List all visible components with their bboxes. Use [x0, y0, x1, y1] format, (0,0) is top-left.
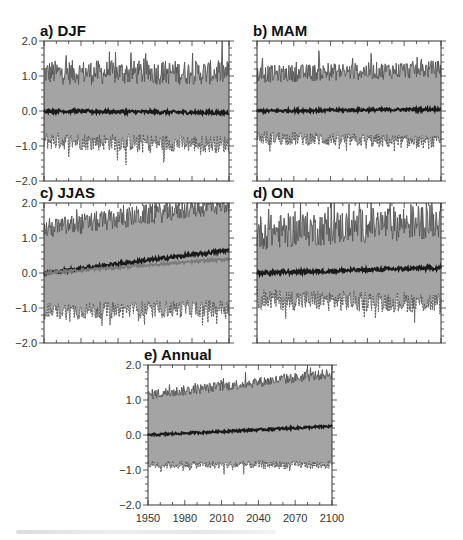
y-tick-label: −2.0	[15, 175, 37, 187]
y-tick-label: −2.0	[119, 499, 141, 511]
panel-title: d) ON	[253, 184, 294, 201]
x-tick-label: 1950	[136, 512, 160, 524]
panel-b: b) MAM	[252, 22, 446, 181]
panel-title: a) DJF	[40, 22, 86, 39]
y-tick-label: 1.0	[126, 394, 141, 406]
y-tick-label: 2.0	[22, 197, 37, 209]
panel-a: 2.01.00.0−1.0−2.0a) DJF	[15, 22, 234, 187]
spread-area	[148, 368, 332, 475]
y-tick-label: 1.0	[22, 70, 37, 82]
y-tick-label: 1.0	[22, 232, 37, 244]
figure-caption-cutoff	[16, 530, 276, 534]
y-tick-label: 2.0	[22, 35, 37, 47]
x-tick-label: 2100	[320, 512, 344, 524]
panel-title: b) MAM	[253, 22, 307, 39]
y-tick-label: 0.0	[22, 105, 37, 117]
y-tick-label: −2.0	[15, 337, 37, 349]
panel-title: e) Annual	[144, 346, 212, 363]
x-tick-label: 2070	[283, 512, 307, 524]
panel-c: 2.01.00.0−1.0−2.0c) JJAS	[15, 184, 234, 349]
panel-e: 2.01.00.0−1.0−2.019501980201020402070210…	[119, 346, 344, 524]
y-tick-label: 2.0	[126, 359, 141, 371]
y-tick-label: −1.0	[119, 464, 141, 476]
spread-area	[44, 41, 229, 165]
x-tick-label: 1980	[173, 512, 197, 524]
y-tick-label: −1.0	[15, 140, 37, 152]
panel-title: c) JJAS	[40, 184, 95, 201]
x-tick-label: 2040	[246, 512, 270, 524]
y-tick-label: 0.0	[22, 267, 37, 279]
y-tick-label: 0.0	[126, 429, 141, 441]
y-tick-label: −1.0	[15, 302, 37, 314]
x-tick-label: 2010	[209, 512, 233, 524]
panel-d: d) ON	[252, 184, 446, 343]
figure: 2.01.00.0−1.0−2.0a) DJFb) MAM2.01.00.0−1…	[0, 0, 463, 540]
